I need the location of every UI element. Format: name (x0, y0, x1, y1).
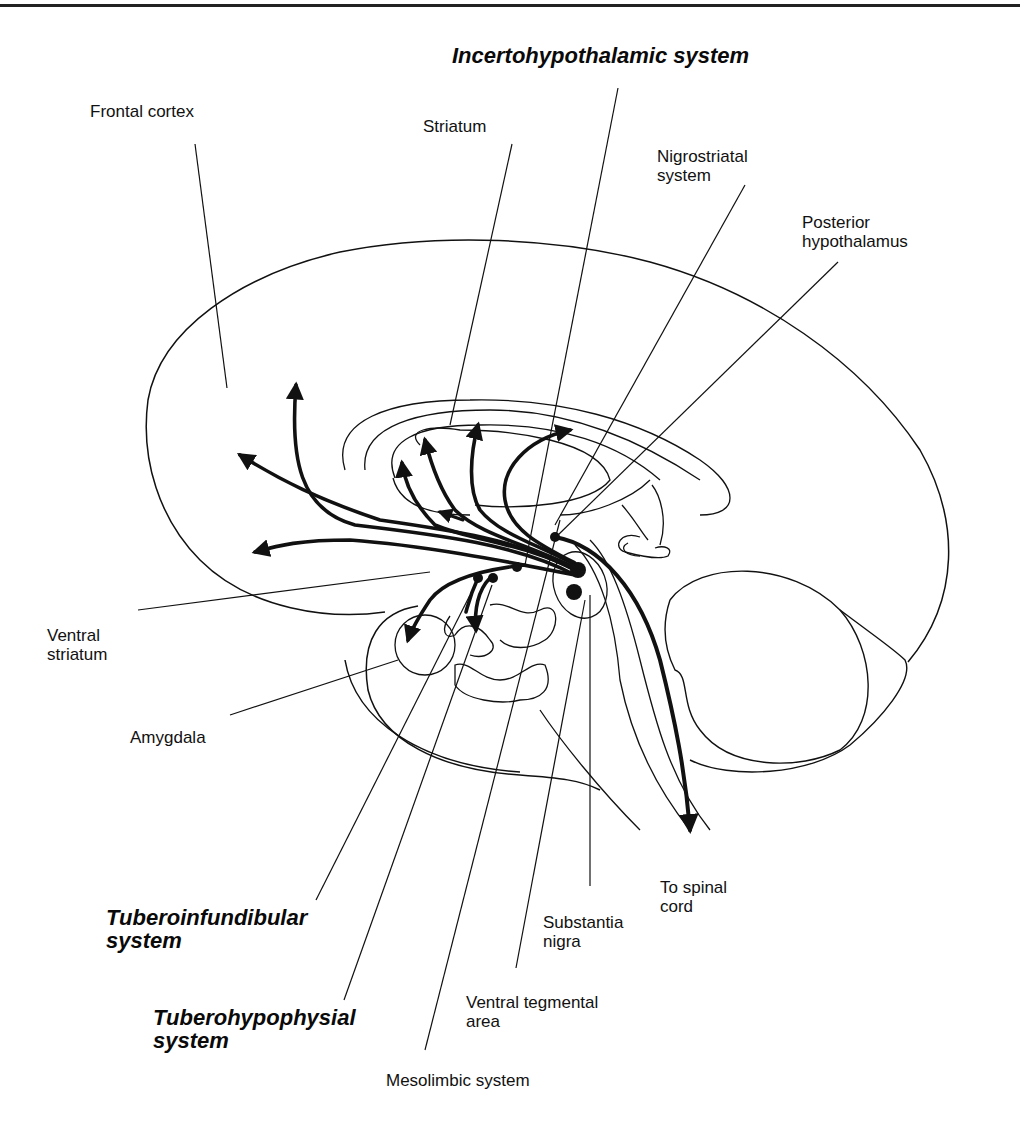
brain-sagittal-diagram (0, 0, 1020, 1125)
label-ventral-tegmental-area: Ventral tegmental area (466, 993, 598, 1031)
label-incertohypothalamic-system: Incertohypothalamic system (452, 44, 749, 67)
label-frontal-cortex: Frontal cortex (90, 102, 194, 121)
leader-frontal-cortex (195, 144, 227, 388)
leader-mesolimbic (425, 520, 560, 1050)
label-tuberohypophysial-system: Tuberohypophysial system (153, 1006, 356, 1052)
leader-tuberoinfundibular (316, 595, 470, 900)
label-substantia-nigra: Substantia nigra (543, 913, 623, 951)
leader-posterior-hypothalamus (556, 262, 838, 537)
brain-outline (146, 240, 948, 790)
fornix-structure (619, 485, 670, 558)
leader-incertohypothalamic (525, 88, 618, 565)
leader-amygdala (230, 660, 398, 715)
label-amygdala: Amygdala (130, 728, 206, 747)
label-ventral-striatum: Ventral striatum (47, 626, 107, 664)
label-posterior-hypothalamus: Posterior hypothalamus (802, 213, 908, 251)
label-mesolimbic-system: Mesolimbic system (386, 1071, 530, 1090)
label-to-spinal-cord: To spinal cord (660, 878, 727, 916)
leader-ventral-striatum (138, 572, 430, 610)
label-tuberoinfundibular-system: Tuberoinfundibular system (106, 906, 307, 952)
label-nigrostriatal-system: Nigrostriatal system (657, 147, 748, 185)
leader-tuberohypophysial (344, 585, 492, 1000)
corpus-callosum (343, 400, 730, 515)
cerebellum (665, 571, 907, 772)
label-striatum: Striatum (423, 117, 486, 136)
leader-striatum (450, 144, 512, 425)
